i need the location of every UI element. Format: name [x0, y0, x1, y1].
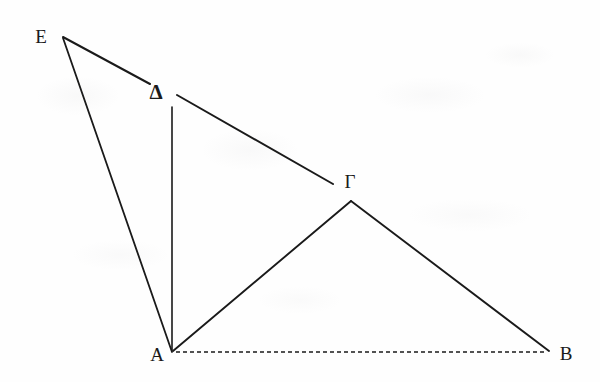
vertex-label-delta: Δ [149, 82, 162, 103]
geometry-figure: E Δ Γ A B [0, 0, 600, 382]
segment-delta-to-gamma [177, 95, 333, 184]
vertex-label-gamma: Γ [345, 172, 356, 191]
diagram-canvas [0, 0, 600, 382]
vertex-label-b: B [560, 344, 573, 363]
segment-gamma-to-b [351, 201, 549, 351]
vertex-label-a: A [150, 345, 164, 364]
segment-a-to-gamma [173, 201, 351, 351]
vertex-label-e: E [35, 27, 47, 46]
